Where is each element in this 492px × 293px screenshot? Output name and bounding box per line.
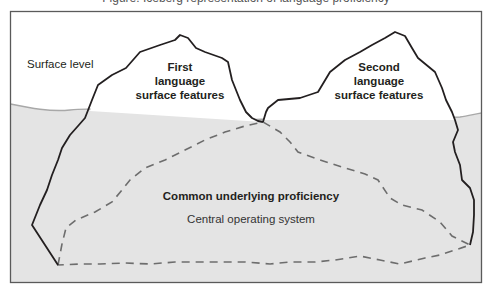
second-language-line2: language	[327, 74, 431, 88]
surface-level-label: Surface level	[27, 57, 93, 71]
first-language-label: First language surface features	[128, 60, 232, 102]
first-language-line2: language	[128, 74, 232, 88]
second-language-line1: Second	[327, 60, 431, 74]
central-operating-system-label: Central operating system	[170, 212, 332, 226]
iceberg-diagram: Figure: Iceberg representation of langua…	[0, 0, 492, 293]
second-language-label: Second language surface features	[327, 60, 431, 102]
second-language-line3: surface features	[327, 88, 431, 102]
iceberg-graphic	[0, 0, 492, 293]
first-language-line1: First	[128, 60, 232, 74]
first-language-line3: surface features	[128, 88, 232, 102]
common-underlying-proficiency-label: Common underlying proficiency	[156, 189, 346, 203]
